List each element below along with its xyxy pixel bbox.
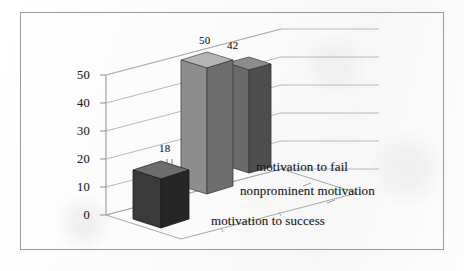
- y-tick-label-0: 0: [64, 208, 90, 223]
- y-tick-label-20: 20: [64, 152, 90, 167]
- y-tick-label-30: 30: [64, 124, 90, 139]
- category-label-motivation-to-fail: motivation to fail: [256, 159, 348, 175]
- chart-plot-area: 50 40 30 20 10 0 18 50 42 motivation to …: [21, 13, 443, 249]
- y-tick-label-40: 40: [64, 96, 90, 111]
- category-label-nonprominent-motivation: nonprominent motivation: [240, 183, 375, 199]
- category-label-motivation-to-success: motivation to success: [211, 213, 325, 229]
- bar-value-label-motivation-to-success: 18: [159, 142, 170, 154]
- bar-value-label-nonprominent-motivation: 50: [199, 34, 210, 46]
- chart-screenshot: 50 40 30 20 10 0 18 50 42 motivation to …: [0, 0, 464, 271]
- y-tick-label-50: 50: [64, 68, 90, 83]
- y-tick-label-10: 10: [64, 180, 90, 195]
- bar-value-label-motivation-to-fail: 42: [227, 39, 238, 51]
- bar-motivation-to-success: [133, 161, 189, 228]
- y-axis: [100, 75, 106, 215]
- figure-border: 50 40 30 20 10 0 18 50 42 motivation to …: [20, 12, 444, 250]
- bar-motivation-to-fail: [227, 57, 271, 173]
